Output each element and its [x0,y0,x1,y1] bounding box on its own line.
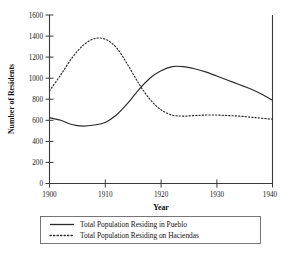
chart-legend: Total Population Residing in Pueblo Tota… [41,217,261,244]
y-tick-label-1600: 1600 [29,12,44,20]
y-tick-label-1000: 1000 [29,75,44,83]
y-tick-label-1400: 1400 [29,33,44,41]
x-axis-title: Year [153,203,169,212]
y-tick-label-600: 600 [32,117,43,125]
y-tick-label-0: 0 [39,180,43,188]
x-axis-ticks: 1900 1910 1920 1930 1940 [42,180,277,199]
x-tick-label-1900: 1900 [42,191,57,199]
y-tick-label-200: 200 [32,159,43,167]
y-axis-title: Number of Residents [7,64,16,134]
x-tick-label-1910: 1910 [98,191,113,199]
y-tick-label-1200: 1200 [29,54,44,62]
chart-figure: 0 200 400 600 800 1000 1200 1400 1600 19… [0,0,295,256]
population-line-chart: 0 200 400 600 800 1000 1200 1400 1600 19… [0,0,295,256]
legend-label-haciendas: Total Population Residing on Haciendas [80,231,199,240]
series-haciendas-line [50,38,273,119]
series-pueblo-line [50,66,273,126]
y-tick-label-400: 400 [32,138,43,146]
legend-label-pueblo: Total Population Residing in Pueblo [80,220,187,229]
x-tick-label-1940: 1940 [263,191,278,199]
y-tick-label-800: 800 [32,96,43,104]
x-tick-label-1920: 1920 [154,191,169,199]
x-tick-label-1930: 1930 [210,191,225,199]
